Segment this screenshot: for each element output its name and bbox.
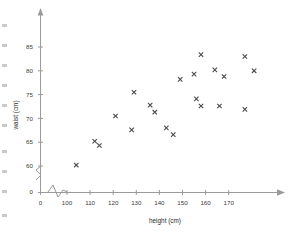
data-point-marker: [93, 139, 97, 143]
data-point-marker: [213, 68, 217, 72]
x-tick-label: 160: [200, 199, 211, 206]
x-tick-label: 0: [39, 199, 43, 206]
scatter-chart-figure: 0 60 65 70 75 80 85 0 100 110 120 130: [0, 0, 294, 236]
x-axis-tick-labels: 0 100 110 120 130 140 150 160 170: [39, 199, 235, 206]
data-point-marker: [148, 103, 152, 107]
x-axis: [41, 189, 286, 196]
x-axis-arrow-icon: [277, 189, 285, 196]
x-tick-label: 100: [62, 199, 73, 206]
y-axis-title: waist (cm): [12, 100, 20, 130]
scatter-plot-canvas: 0 60 65 70 75 80 85 0 100 110 120 130: [0, 0, 294, 236]
x-axis-break-symbol: [48, 185, 67, 197]
data-point-marker: [164, 126, 168, 130]
data-point-marker: [132, 90, 136, 94]
data-point-marker: [194, 97, 198, 101]
x-tick-label: 110: [85, 199, 95, 206]
y-axis-tick-labels: 0 60 65 70 75 80 85: [26, 43, 33, 195]
y-axis: [38, 8, 44, 192]
data-point-marker: [97, 143, 101, 147]
x-tick-label: 140: [154, 199, 165, 206]
data-point-marker: [113, 114, 117, 118]
data-point-marker: [129, 128, 133, 132]
x-tick-label: 170: [224, 199, 235, 206]
data-point-marker: [199, 104, 203, 108]
data-point-marker: [243, 54, 247, 58]
y-tick-label: 80: [26, 67, 33, 74]
x-tick-label: 130: [131, 199, 142, 206]
y-tick-label: 65: [26, 138, 33, 145]
y-tick-label: 60: [26, 162, 33, 169]
data-point-marker: [74, 163, 78, 167]
data-point-marker: [199, 52, 203, 56]
data-point-marker: [252, 69, 256, 73]
data-point-marker: [153, 110, 157, 114]
y-axis-arrow-icon: [38, 8, 44, 16]
data-point-marker: [178, 77, 182, 81]
x-tick-label: 150: [177, 199, 188, 206]
y-tick-label: 85: [26, 43, 33, 50]
data-point-marker: [243, 107, 247, 111]
y-tick-label: 0: [30, 188, 34, 195]
data-point-group: [74, 52, 256, 167]
data-point-marker: [171, 132, 175, 136]
data-point-marker: [192, 72, 196, 76]
x-tick-label: 120: [108, 199, 119, 206]
y-tick-label: 75: [26, 91, 33, 98]
data-point-marker: [217, 104, 221, 108]
data-point-marker: [222, 74, 226, 78]
x-axis-title: height (cm): [149, 217, 181, 225]
y-tick-label: 70: [26, 115, 33, 122]
